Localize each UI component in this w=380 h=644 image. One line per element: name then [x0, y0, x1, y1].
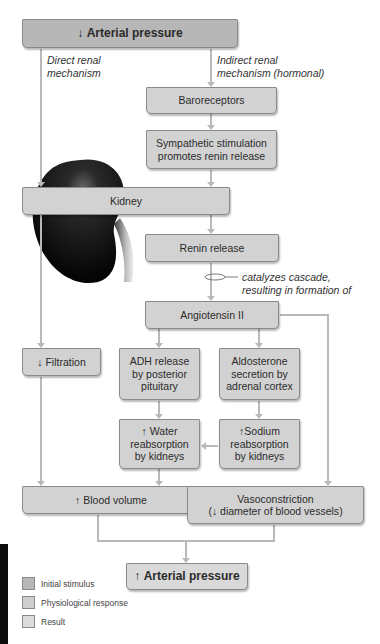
baroreceptors-box: Baroreceptors — [146, 87, 277, 114]
indirect-mechanism-label: Indirect renal mechanism (hormonal) — [217, 54, 324, 79]
legend-label: Result — [41, 617, 65, 627]
sympathetic-stimulation-box: Sympathetic stimulation promotes renin r… — [146, 130, 277, 169]
result-box: ↑ Arterial pressure — [126, 563, 248, 590]
diagram-canvas: ↓ Arterial pressure Direct renal mechani… — [0, 0, 380, 644]
angiotensin-ii-label: Angiotensin II — [180, 309, 244, 322]
swatch-result — [22, 615, 35, 628]
initial-stimulus-box: ↓ Arterial pressure — [22, 19, 238, 48]
aldosterone-box: Aldosterone secretion by adrenal cortex — [219, 348, 300, 400]
aldosterone-label: Aldosterone secretion by adrenal cortex — [224, 355, 295, 393]
swatch-initial-stimulus — [22, 577, 35, 590]
increase-arrow-icon: ↑ — [142, 425, 147, 437]
swatch-physiological-response — [22, 596, 35, 609]
kidney-box: Kidney — [22, 187, 230, 215]
result-label: Arterial pressure — [144, 570, 240, 583]
direct-mechanism-label: Direct renal mechanism — [47, 54, 101, 79]
legend-item-physiological-response: Physiological response — [22, 593, 128, 612]
increase-arrow-icon: ↑ — [75, 494, 80, 507]
legend-item-result: Result — [22, 612, 128, 631]
legend-label: Physiological response — [41, 598, 128, 608]
kidney-label: Kidney — [110, 195, 142, 208]
cascade-note: catalyzes cascade, resulting in formatio… — [242, 271, 351, 296]
vasoconstriction-box: Vasoconstriction (↓ diameter of blood ve… — [187, 486, 364, 524]
water-reabsorption-label: Water reabsorption by kidneys — [130, 425, 188, 462]
filtration-label: Filtration — [45, 356, 85, 369]
baroreceptors-label: Baroreceptors — [179, 94, 245, 107]
blood-volume-label: Blood volume — [83, 494, 147, 507]
legend-item-initial-stimulus: Initial stimulus — [22, 574, 128, 593]
adh-release-box: ADH release by posterior pituitary — [119, 348, 200, 400]
renin-release-label: Renin release — [180, 242, 245, 255]
adh-release-label: ADH release by posterior pituitary — [126, 355, 193, 393]
angiotensin-ii-box: Angiotensin II — [145, 301, 279, 329]
legend: Initial stimulus Physiological response … — [22, 574, 128, 631]
renin-release-box: Renin release — [145, 234, 279, 262]
page-edge-bar — [0, 544, 8, 644]
decrease-arrow-icon: ↓ — [212, 505, 217, 517]
legend-label: Initial stimulus — [41, 579, 94, 589]
blood-volume-box: ↑ Blood volume — [22, 486, 200, 514]
sodium-reabsorption-box: ↑Sodium reabsorption by kidneys — [219, 419, 300, 469]
increase-arrow-icon: ↑ — [134, 570, 140, 583]
initial-stimulus-label: Arterial pressure — [87, 27, 183, 40]
decrease-arrow-icon: ↓ — [37, 356, 42, 369]
vasoconstriction-detail: diameter of blood vessels — [220, 505, 339, 517]
sympathetic-stimulation-label: Sympathetic stimulation promotes renin r… — [155, 137, 268, 162]
decrease-arrow-icon: ↓ — [77, 27, 83, 40]
filtration-box: ↓ Filtration — [22, 348, 101, 376]
water-reabsorption-box: ↑ Water reabsorption by kidneys — [119, 419, 200, 469]
vasoconstriction-label: Vasoconstriction — [237, 493, 313, 506]
